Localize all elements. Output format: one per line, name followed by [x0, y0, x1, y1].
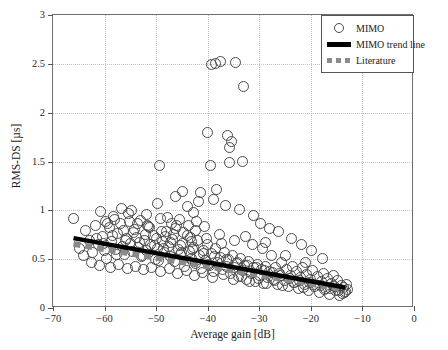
x-axis-tick	[208, 306, 209, 311]
solid-line-icon	[326, 42, 352, 47]
open-circle-icon	[326, 23, 352, 33]
x-axis-tick-label: −50	[148, 313, 164, 324]
x-axis-tick	[105, 306, 106, 311]
literature-trend-line	[74, 244, 346, 290]
mimo-trend-line	[74, 238, 346, 287]
x-axis-tick-label: 0	[411, 313, 416, 324]
x-axis-label: Average gain [dB]	[52, 328, 413, 340]
plot-area: 00.511.522.53−70−60−50−40−30−20−100 MIMO…	[52, 14, 413, 307]
y-axis-tick-label: 0.5	[32, 253, 45, 264]
x-axis-tick	[311, 306, 312, 311]
legend-label-literature: Literature	[352, 55, 395, 66]
x-axis-tick	[362, 306, 363, 311]
legend-label-mimo: MIMO	[352, 23, 384, 34]
y-axis-tick-label: 3	[40, 9, 45, 20]
y-axis-label: RMS-DS [µs]	[10, 56, 22, 256]
y-axis-tick-label: 2	[40, 107, 45, 118]
x-axis-tick-label: −70	[45, 313, 61, 324]
legend-label-mimo-trend: MIMO trend line	[352, 39, 425, 50]
y-axis-tick-label: 0	[40, 302, 45, 313]
x-axis-tick-label: −30	[251, 313, 267, 324]
legend-item-literature: Literature	[326, 52, 409, 68]
y-axis-tick-label: 1.5	[32, 156, 45, 167]
dashed-line-icon	[326, 58, 352, 63]
legend-item-mimo-trend: MIMO trend line	[326, 36, 409, 52]
x-axis-tick	[53, 306, 54, 311]
x-axis-tick-label: −10	[354, 313, 370, 324]
x-axis-tick	[259, 306, 260, 311]
x-axis-tick-label: −20	[303, 313, 319, 324]
legend-item-mimo: MIMO	[326, 20, 409, 36]
x-axis-tick-label: −40	[199, 313, 215, 324]
x-axis-tick	[414, 306, 415, 311]
scatter-chart-figure: 00.511.522.53−70−60−50−40−30−20−100 MIMO…	[0, 0, 448, 350]
chart-legend: MIMO MIMO trend line Literature	[321, 15, 414, 73]
y-axis-tick-label: 1	[40, 205, 45, 216]
y-axis-tick-label: 2.5	[32, 58, 45, 69]
x-axis-tick-label: −60	[96, 313, 112, 324]
x-axis-tick	[156, 306, 157, 311]
